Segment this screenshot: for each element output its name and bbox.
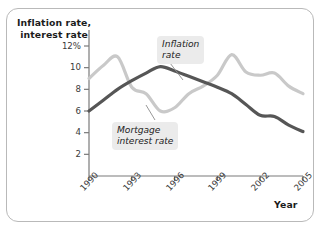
y-tick-label: 6 <box>55 106 81 116</box>
y-tick-label: 12% <box>55 41 81 51</box>
y-axis-title-line-1: Inflation rate, <box>17 17 91 29</box>
callout-inflation-rate: Inflation rate <box>157 36 204 64</box>
y-tick-label: 4 <box>55 127 81 137</box>
y-axis-title-line-2: interest rate <box>17 29 91 41</box>
callout-mortgage-line-1: Mortgage <box>117 125 173 136</box>
callout-inflation-line-1: Inflation <box>162 39 199 50</box>
leader-line-mortgage <box>146 105 155 120</box>
y-axis-ticks <box>84 46 89 154</box>
callout-mortgage-interest-rate: Mortgage interest rate <box>112 122 178 150</box>
y-tick-label: 10 <box>55 62 81 72</box>
callout-inflation-line-2: rate <box>162 50 199 61</box>
y-axis-title: Inflation rate, interest rate <box>17 17 91 40</box>
y-tick-label: 8 <box>55 84 81 94</box>
y-tick-label: 2 <box>55 149 81 159</box>
callout-mortgage-line-2: interest rate <box>117 136 173 147</box>
x-axis-title: Year <box>274 199 297 211</box>
